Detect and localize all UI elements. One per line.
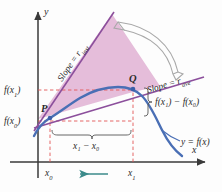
y-tick-fx1: f(x1) (4, 85, 20, 98)
point-p-marker (48, 116, 53, 121)
x-tick-x1: x1 (127, 168, 135, 181)
brace-horizontal (52, 130, 131, 139)
y-tick-fx0-end: ) (16, 116, 20, 127)
point-q-label: Q (129, 73, 137, 84)
figure-canvas: y x Slope = rinst Slope = rave P Q f(x1)… (0, 0, 222, 192)
secant-tangent-figure: y x Slope = rinst Slope = rave P Q f(x1)… (0, 0, 222, 192)
wedge-region (38, 14, 160, 119)
run-brace-label: x₁ − x₀ (72, 141, 99, 151)
curve-label: y = f(x) (180, 137, 210, 148)
secant-slope-sub: ave (181, 78, 192, 87)
y-axis-label: y (43, 6, 49, 17)
point-q-marker (131, 87, 136, 92)
point-p-label: P (41, 103, 48, 114)
x-tick-x0: x0 (44, 168, 53, 181)
x-tick-x0-sub: 0 (49, 174, 53, 181)
x-tick-x1-sub: 1 (132, 174, 135, 181)
y-tick-fx1-end: ) (16, 85, 20, 96)
y-tick-fx0: f(x0) (4, 116, 20, 129)
rise-brace-label: f(x₁) − f(x₀) (155, 97, 199, 108)
